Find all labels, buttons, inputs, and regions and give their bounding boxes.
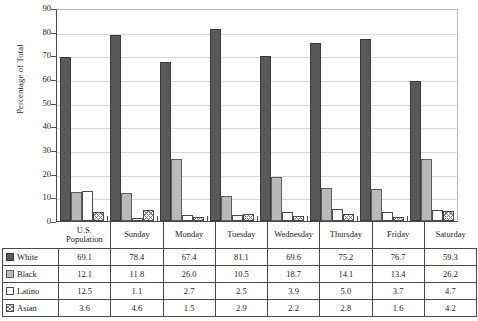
table-cell: 4.7	[424, 283, 476, 300]
legend-swatch-black-icon	[6, 270, 14, 278]
bar-black-sunday	[121, 193, 132, 221]
table-cell: 81.1	[215, 249, 267, 266]
table-cell: 69.1	[59, 249, 111, 266]
table-cell: 13.4	[372, 266, 424, 283]
table-cell: 3.6	[59, 300, 111, 317]
table-cell: 1.5	[163, 300, 215, 317]
table-body: White69.178.467.481.169.675.276.759.3Bla…	[3, 249, 477, 317]
bar-latino-monday	[182, 215, 193, 221]
legend-entry-asian: Asian	[3, 300, 59, 317]
plot-axes	[56, 9, 458, 222]
plot-area: Percentage of Total 9080706050403020100	[0, 0, 478, 222]
y-tick-80: 80	[27, 28, 51, 36]
y-axis-tick-labels: 9080706050403020100	[27, 4, 51, 218]
bar-latino-saturday	[432, 210, 443, 221]
table-col-header: Sunday	[111, 222, 163, 249]
bar-black-monday	[171, 159, 182, 221]
table-cell: 2.9	[215, 300, 267, 317]
y-tickmark-10	[51, 198, 56, 199]
table-cell: 11.8	[111, 266, 163, 283]
table-row: White69.178.467.481.169.675.276.759.3	[3, 249, 477, 266]
y-tickmark-50	[51, 104, 56, 105]
bar-asian-tuesday	[243, 214, 254, 221]
table-col-header: Wednesday	[268, 222, 320, 249]
legend-label: Asian	[17, 303, 37, 313]
bar-asian-wednesday	[293, 216, 304, 221]
bar-group	[307, 10, 357, 221]
bar-group	[257, 10, 307, 221]
data-table: U.S.PopulationSundayMondayTuesdayWednesd…	[2, 222, 477, 317]
bar-white-wednesday	[260, 56, 271, 221]
table-cell: 2.5	[215, 283, 267, 300]
bar-group	[107, 10, 157, 221]
table-col-header: Friday	[372, 222, 424, 249]
table-cell: 14.1	[320, 266, 372, 283]
legend-label: Latino	[17, 286, 39, 296]
legend-swatch-latino-icon	[6, 287, 14, 295]
legend-entry-white: White	[3, 249, 59, 266]
bar-white-tuesday	[210, 29, 221, 221]
table-cell: 2.2	[268, 300, 320, 317]
y-tick-70: 70	[27, 51, 51, 59]
y-tickmark-60	[51, 80, 56, 81]
table-cell: 1.1	[111, 283, 163, 300]
table-cell: 2.7	[163, 283, 215, 300]
bar-asian-friday	[393, 217, 404, 221]
table-cell: 26.0	[163, 266, 215, 283]
table-cell: 4.6	[111, 300, 163, 317]
table-row: Asian3.64.61.52.92.22.81.64.2	[3, 300, 477, 317]
table-row: Latino12.51.12.72.53.95.03.74.7	[3, 283, 477, 300]
table-cell: 78.4	[111, 249, 163, 266]
y-tick-30: 30	[27, 146, 51, 154]
bar-black-thursday	[321, 188, 332, 221]
table-cell: 10.5	[215, 266, 267, 283]
bar-white-friday	[360, 39, 371, 221]
bar-black-wednesday	[271, 177, 282, 221]
table-row: Black12.111.826.010.518.714.113.426.2	[3, 266, 477, 283]
bar-black-u-s-population	[71, 192, 82, 221]
bar-white-sunday	[110, 35, 121, 221]
table-cell: 1.6	[372, 300, 424, 317]
table-cell: 12.5	[59, 283, 111, 300]
legend-label: Black	[17, 269, 37, 279]
bar-latino-sunday	[132, 218, 143, 221]
y-axis-title: Percentage of Total	[15, 0, 25, 159]
y-tickmark-70	[51, 56, 56, 57]
bar-group	[157, 10, 207, 221]
table-header-corner	[3, 222, 59, 249]
y-tickmark-80	[51, 33, 56, 34]
bar-asian-sunday	[143, 210, 154, 221]
grouped-bar-chart-figure: Percentage of Total 9080706050403020100 …	[0, 0, 478, 321]
bar-asian-thursday	[343, 214, 354, 221]
bar-asian-u-s-population	[93, 212, 104, 221]
bar-group	[207, 10, 257, 221]
bar-black-tuesday	[221, 196, 232, 221]
bar-white-monday	[160, 62, 171, 222]
bar-groups	[57, 10, 457, 221]
bar-group	[57, 10, 107, 221]
table-cell: 3.7	[372, 283, 424, 300]
table-cell: 67.4	[163, 249, 215, 266]
table-cell: 59.3	[424, 249, 476, 266]
y-tickmark-20	[51, 175, 56, 176]
table-cell: 69.6	[268, 249, 320, 266]
table-header: U.S.PopulationSundayMondayTuesdayWednesd…	[3, 222, 477, 249]
bar-black-saturday	[421, 159, 432, 221]
y-tick-10: 10	[27, 193, 51, 201]
table-cell: 76.7	[372, 249, 424, 266]
bar-latino-u-s-population	[82, 191, 93, 221]
table-cell: 12.1	[59, 266, 111, 283]
y-tickmark-90	[51, 9, 56, 10]
table-cell: 75.2	[320, 249, 372, 266]
table-cell: 5.0	[320, 283, 372, 300]
table-cell: 26.2	[424, 266, 476, 283]
table-cell: 3.9	[268, 283, 320, 300]
bar-latino-friday	[382, 212, 393, 221]
bar-white-thursday	[310, 43, 321, 221]
table-col-header: Tuesday	[215, 222, 267, 249]
legend-swatch-white-icon	[6, 253, 14, 261]
table-cell: 18.7	[268, 266, 320, 283]
y-tickmark-30	[51, 151, 56, 152]
legend-entry-latino: Latino	[3, 283, 59, 300]
table-col-header: Thursday	[320, 222, 372, 249]
